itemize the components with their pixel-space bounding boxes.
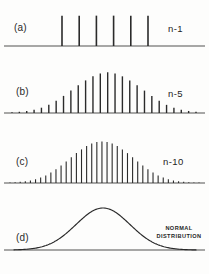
panel-a-label: (a) xyxy=(14,22,27,33)
bar-series xyxy=(62,16,148,46)
normal-caption-line-2: DISTRIBUTION xyxy=(152,232,206,240)
panel-b-n-label: n-5 xyxy=(168,88,183,99)
normal-caption-line-1: NORMAL xyxy=(152,224,206,232)
panel-c-label: (c) xyxy=(16,156,28,167)
panel-d-label: (d) xyxy=(16,232,29,243)
panel-a-n-label: n-1 xyxy=(168,23,183,34)
panel-b-label: (b) xyxy=(16,86,29,97)
statistics-figure: (a) n-1 (b) n-5 (c) n-10 (d) NORMAL DIST… xyxy=(0,0,209,274)
normal-distribution-caption: NORMAL DISTRIBUTION xyxy=(152,224,206,241)
panel-c xyxy=(0,132,209,202)
panel-c-n-label: n-10 xyxy=(163,156,184,167)
panel-c-plot xyxy=(0,132,209,202)
